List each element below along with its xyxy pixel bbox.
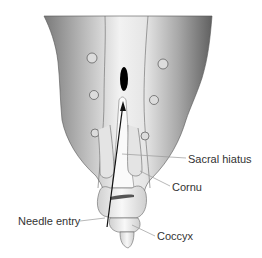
foramen-right-2 xyxy=(150,96,159,105)
foramen-right-1 xyxy=(158,59,168,69)
foramen-left-1 xyxy=(87,53,97,63)
label-sacral-hiatus: Sacral hiatus xyxy=(188,153,252,165)
coccyx-base xyxy=(97,186,146,218)
foramen-left-2 xyxy=(90,91,99,100)
label-needle-entry: Needle entry xyxy=(18,215,80,227)
label-coccyx: Coccyx xyxy=(157,230,193,242)
coccyx-tip xyxy=(120,232,134,248)
leader-needle-entry xyxy=(80,218,105,221)
epidural-space xyxy=(120,67,128,91)
coccyx-segment-2 xyxy=(109,218,140,232)
foramen-right-3 xyxy=(141,132,149,140)
label-cornu: Cornu xyxy=(172,181,202,193)
